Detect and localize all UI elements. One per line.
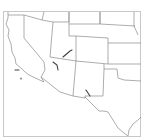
- map-container: [0, 0, 143, 139]
- southwest-us-map: [0, 0, 143, 139]
